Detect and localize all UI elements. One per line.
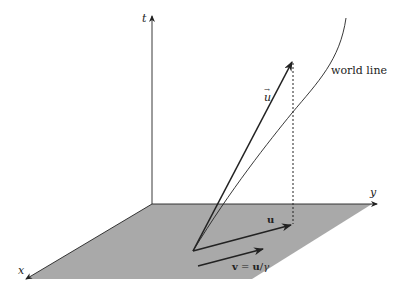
velocity-label: v = u/γ: [231, 261, 269, 272]
x-axis-label: x: [18, 264, 25, 277]
y-axis-label: y: [369, 186, 377, 199]
velocity-gamma-symbol: γ: [263, 261, 269, 272]
four-velocity-arrow-accent: →: [264, 86, 270, 94]
velocity-equals: =: [238, 261, 253, 272]
t-axis-label: t: [142, 12, 147, 25]
spacetime-diagram: t y x u → world line u v = u/γ: [0, 0, 397, 294]
world-line-label: world line: [331, 64, 387, 77]
velocity-u-symbol: u: [253, 261, 260, 272]
spatial-u-label: u: [267, 214, 274, 225]
